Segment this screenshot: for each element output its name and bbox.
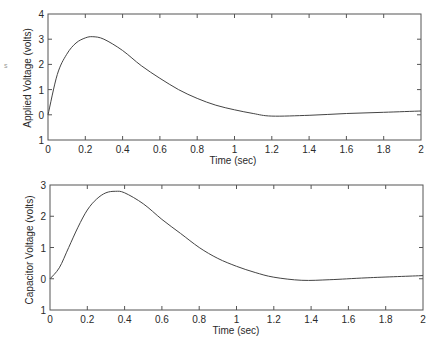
y-tick-label: 1 (38, 85, 44, 96)
x-tick-label: 0.2 (80, 314, 94, 325)
x-tick-label: 0 (47, 314, 53, 325)
y-tick-label: 3 (40, 180, 46, 191)
x-tick-label: 1.2 (265, 144, 279, 155)
bottom-x-ticks: 00.20.40.60.811.21.41.61.82 (47, 185, 426, 325)
x-tick-label: 1.4 (302, 144, 316, 155)
applied-voltage-line (48, 37, 421, 117)
x-tick-label: 0.6 (155, 314, 169, 325)
x-tick-label: 1.2 (267, 314, 281, 325)
y-tick-label: 0 (38, 110, 44, 121)
x-tick-label: 1.8 (379, 314, 393, 325)
bottom-x-axis-label: Time (sec) (213, 325, 260, 336)
y-tick-label: 1 (40, 243, 46, 254)
x-tick-label: 1.6 (339, 144, 353, 155)
figure: s 101234 00.20.40.60.811.21.41.61.82 App… (0, 0, 430, 341)
capacitor-voltage-line (50, 191, 423, 280)
top-x-ticks: 00.20.40.60.811.21.41.61.82 (45, 14, 424, 155)
x-tick-label: 0.8 (190, 144, 204, 155)
y-tick-label: 1 (38, 135, 44, 146)
x-tick-label: 0.8 (192, 314, 206, 325)
bottom-y-ticks: 10123 (40, 180, 423, 316)
top-axes-frame (48, 14, 421, 140)
x-tick-label: 2 (418, 144, 424, 155)
x-tick-label: 1.8 (377, 144, 391, 155)
top-y-ticks: 101234 (38, 9, 421, 146)
bottom-axes-frame (50, 185, 423, 310)
y-tick-label: 2 (38, 59, 44, 70)
top-x-axis-label: Time (sec) (210, 155, 257, 166)
x-tick-label: 0.2 (78, 144, 92, 155)
y-tick-label: 3 (38, 34, 44, 45)
y-tick-label: 1 (40, 305, 46, 316)
x-tick-label: 0 (45, 144, 51, 155)
x-tick-label: 1.4 (304, 314, 318, 325)
x-tick-label: 1 (232, 144, 238, 155)
top-y-axis-label: Applied Voltage (volts) (22, 28, 33, 128)
applied-voltage-plot: 101234 00.20.40.60.811.21.41.61.82 Appli… (22, 9, 424, 166)
scan-artifact: s (4, 62, 8, 69)
y-tick-label: 2 (40, 211, 46, 222)
x-tick-label: 1.6 (341, 314, 355, 325)
bottom-y-axis-label: Capacitor Voltage (volts) (24, 196, 35, 305)
capacitor-voltage-plot: 10123 00.20.40.60.811.21.41.61.82 Capaci… (24, 180, 426, 336)
x-tick-label: 0.6 (153, 144, 167, 155)
x-tick-label: 0.4 (118, 314, 132, 325)
x-tick-label: 2 (420, 314, 426, 325)
y-tick-label: 0 (40, 274, 46, 285)
x-tick-label: 1 (234, 314, 240, 325)
x-tick-label: 0.4 (116, 144, 130, 155)
y-tick-label: 4 (38, 9, 44, 20)
